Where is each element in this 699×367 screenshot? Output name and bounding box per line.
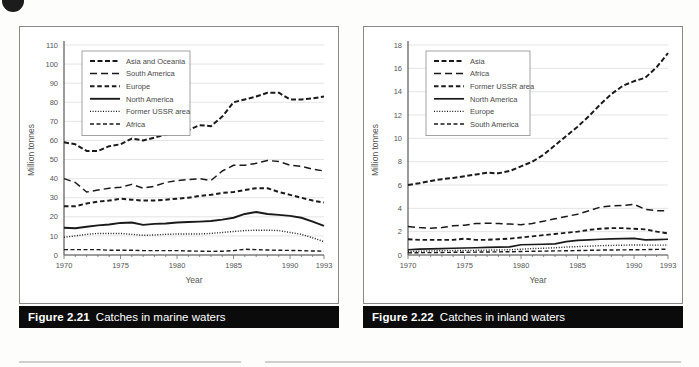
y-tick-label: 60 (50, 136, 58, 145)
y-tick-label: 14 (394, 87, 402, 96)
x-tick-label: 1990 (282, 261, 299, 270)
figure-marine-waters: 0102030405060708090100110197019751980198… (19, 26, 339, 328)
figure-caption-number: Figure 2.21 (28, 311, 90, 323)
y-tick-label: 4 (398, 204, 402, 213)
legend-label: Asia and Oceania (126, 57, 186, 66)
figure-inland-waters: 024681012141618197019751980198519901993Y… (363, 26, 683, 328)
line-chart-marine[interactable]: 0102030405060708090100110197019751980198… (20, 27, 338, 303)
x-tick-label: 1980 (513, 261, 530, 270)
x-tick-label: 1993 (316, 261, 333, 270)
y-tick-label: 80 (50, 98, 58, 107)
rule-right (265, 361, 681, 363)
legend-label: South America (126, 69, 176, 78)
x-axis-title: Year (529, 275, 546, 285)
legend-label: Africa (470, 69, 490, 78)
y-tick-label: 0 (54, 251, 58, 260)
x-tick-label: 1993 (660, 261, 677, 270)
legend-label: Former USSR area (126, 107, 191, 116)
legend-label: Europe (470, 107, 494, 116)
figure-caption-marine: Figure 2.21 Catches in marine waters (19, 306, 339, 328)
y-tick-label: 10 (50, 232, 58, 241)
series-line (64, 188, 324, 206)
y-axis-title: Million tonnes (26, 124, 36, 176)
y-tick-label: 50 (50, 155, 58, 164)
x-tick-label: 1990 (626, 261, 643, 270)
y-tick-label: 12 (394, 111, 402, 120)
series-line (64, 249, 324, 251)
y-tick-label: 20 (50, 212, 58, 221)
x-tick-label: 1975 (456, 261, 473, 270)
figure-caption-number: Figure 2.22 (372, 311, 434, 323)
legend-label: North America (126, 95, 174, 104)
y-tick-label: 6 (398, 181, 402, 190)
chart-frame-inland: 024681012141618197019751980198519901993Y… (363, 26, 683, 304)
line-chart-inland[interactable]: 024681012141618197019751980198519901993Y… (364, 27, 682, 303)
series-line (64, 161, 324, 193)
legend-label: Asia (470, 57, 485, 66)
y-tick-label: 100 (45, 60, 58, 69)
y-tick-label: 18 (394, 41, 402, 50)
figure-caption-text: Catches in marine waters (96, 311, 226, 323)
legend-label: Former USSR area (470, 82, 535, 91)
y-tick-label: 2 (398, 227, 402, 236)
y-axis-title: Million tonnes (370, 124, 380, 176)
legend-label: Europe (126, 82, 150, 91)
page-bottom-rules (0, 361, 699, 363)
y-tick-label: 110 (46, 41, 58, 50)
legend-label: Africa (126, 120, 146, 129)
figure-caption-text: Catches in inland waters (440, 311, 565, 323)
chart-frame-marine: 0102030405060708090100110197019751980198… (19, 26, 339, 304)
y-tick-label: 70 (50, 117, 58, 126)
x-tick-label: 1970 (56, 261, 73, 270)
y-tick-label: 0 (398, 251, 402, 260)
x-tick-label: 1985 (569, 261, 586, 270)
y-tick-label: 30 (50, 193, 58, 202)
x-tick-label: 1980 (169, 261, 186, 270)
x-tick-label: 1975 (112, 261, 129, 270)
series-line (64, 212, 324, 228)
y-tick-label: 90 (50, 79, 58, 88)
x-tick-label: 1985 (225, 261, 242, 270)
legend-label: South America (470, 120, 520, 129)
rule-left (19, 361, 241, 363)
y-tick-label: 8 (398, 157, 402, 166)
series-line (408, 204, 668, 228)
y-tick-label: 10 (394, 134, 402, 143)
legend-label: North America (470, 95, 518, 104)
y-tick-label: 40 (50, 174, 58, 183)
y-tick-label: 16 (394, 64, 402, 73)
x-axis-title: Year (185, 275, 202, 285)
x-tick-label: 1970 (400, 261, 417, 270)
figure-caption-inland: Figure 2.22 Catches in inland waters (363, 306, 683, 328)
